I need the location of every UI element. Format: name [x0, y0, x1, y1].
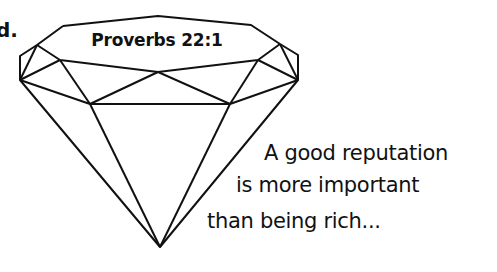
caption-line-3: than being rich... — [207, 209, 381, 233]
caption-line-1: A good reputation — [264, 141, 448, 165]
caption-line-2: is more important — [236, 173, 419, 197]
proverb-diamond-illustration: d. Proverbs 22:1 A good reputation is mo… — [0, 0, 497, 272]
diamond-label: Proverbs 22:1 — [67, 30, 247, 50]
